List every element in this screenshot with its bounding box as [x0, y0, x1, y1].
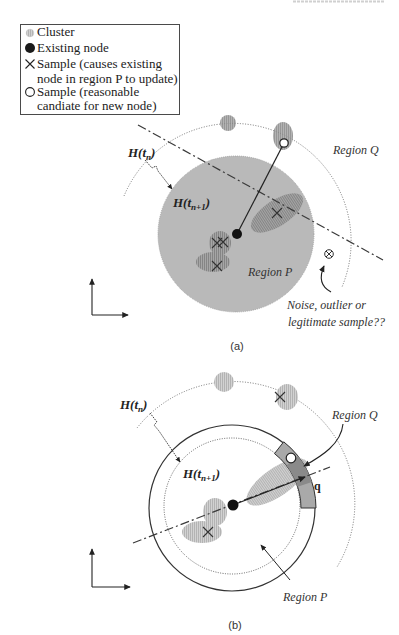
figure-canvas: H(tn) H(tn+1) Region Q Region P Noise, o…: [0, 0, 399, 635]
open-circle-icon: [24, 86, 36, 98]
existing-node-icon: [232, 229, 242, 239]
noise-note-line-1: Noise, outlier or: [286, 298, 366, 312]
panel-a: H(tn) H(tn+1) Region Q Region P Noise, o…: [92, 115, 385, 352]
noise-sample-icon: [325, 250, 334, 259]
shrink-arrow: [145, 160, 172, 189]
cluster-icon: [209, 231, 231, 255]
open-circle-icon: [280, 139, 288, 147]
cross-icon: [24, 58, 36, 70]
existing-node-icon: [24, 42, 36, 54]
existing-node-icon: [228, 500, 239, 511]
open-circle-icon: [286, 453, 296, 463]
label-h-tn: H(tn): [127, 145, 155, 162]
cluster-icon: [214, 372, 234, 392]
legend-label-sample-update-1: Sample (causes existing: [37, 57, 162, 71]
label-h-tn: H(tn): [119, 397, 147, 414]
label-region-p: Region P: [247, 265, 293, 279]
label-region-q: Region Q: [331, 408, 378, 422]
label-region-p: Region P: [282, 590, 328, 604]
region-q-pointer-arrow: [304, 424, 343, 466]
caption-a: (a): [230, 340, 243, 352]
cluster-icon: [182, 521, 222, 543]
legend-label-sample-new-2: candiate for new node): [37, 99, 156, 113]
legend-label-sample-new-1: Sample (reasonable: [37, 85, 139, 99]
noise-curved-arrow: [321, 266, 331, 292]
caption-b: (b): [228, 619, 241, 631]
label-q: q: [314, 479, 321, 493]
noise-note-line-2: legitimate sample??: [288, 315, 385, 329]
cluster-icon: [24, 27, 36, 39]
legend-label-existing-node: Existing node: [37, 41, 109, 55]
legend-label-cluster: Cluster: [37, 25, 75, 39]
cluster-icon: [220, 115, 236, 131]
label-region-q: Region Q: [332, 143, 379, 157]
legend: Cluster Existing node Sample (causes exi…: [20, 24, 180, 115]
panel-b: H(tn) H(tn+1) Region Q q Region P (b): [92, 372, 378, 631]
